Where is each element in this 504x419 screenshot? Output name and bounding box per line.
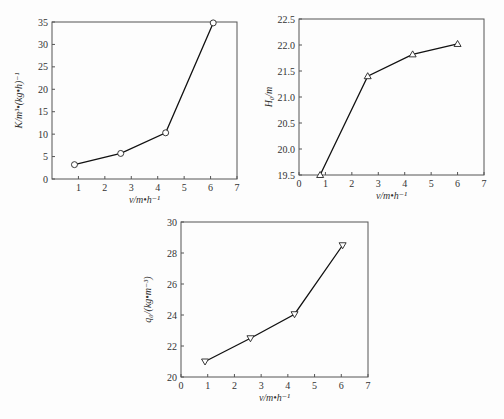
y-axis-label: q₀/(kg•m⁻³) bbox=[142, 276, 154, 323]
x-tick-label: 1 bbox=[205, 380, 210, 391]
data-series-line bbox=[320, 44, 457, 175]
plot-frame bbox=[52, 22, 237, 179]
data-point-marker bbox=[163, 130, 169, 136]
y-tick-label: 25 bbox=[38, 61, 48, 72]
x-tick-label: 6 bbox=[455, 178, 460, 189]
y-tick-label: 35 bbox=[38, 17, 48, 28]
x-tick-label: 1 bbox=[323, 178, 328, 189]
chart-k-vs-velocity: 051015202530351234567v/m•h⁻¹K/m³•(kg•h)⁻… bbox=[13, 17, 240, 206]
y-tick-label: 21.0 bbox=[278, 92, 296, 103]
x-tick-label: 6 bbox=[208, 182, 213, 193]
y-tick-label: 10 bbox=[38, 129, 48, 140]
data-point-marker bbox=[202, 359, 209, 365]
x-tick-label: 5 bbox=[429, 178, 434, 189]
data-point-marker bbox=[118, 150, 124, 156]
y-tick-label: 30 bbox=[38, 39, 48, 50]
y-tick-label: 15 bbox=[38, 106, 48, 117]
data-point-marker bbox=[71, 162, 77, 168]
x-axis-label: v/m•h⁻¹ bbox=[259, 392, 290, 403]
y-tick-label: 20.5 bbox=[278, 118, 296, 129]
x-tick-label: 5 bbox=[182, 182, 187, 193]
x-tick-label: 4 bbox=[402, 178, 407, 189]
y-tick-label: 22.0 bbox=[278, 40, 296, 51]
y-tick-label: 24 bbox=[167, 310, 177, 321]
x-tick-label: 5 bbox=[312, 380, 317, 391]
y-tick-label: 5 bbox=[43, 151, 48, 162]
y-tick-label: 21.5 bbox=[278, 66, 296, 77]
data-series-line bbox=[205, 245, 343, 361]
y-axis-label: K/m³•(kg•h)⁻¹ bbox=[13, 72, 25, 129]
y-tick-label: 20 bbox=[38, 84, 48, 95]
x-tick-label: 3 bbox=[376, 178, 381, 189]
y-axis-label: H₀/m bbox=[263, 87, 274, 109]
chart-h0-vs-velocity: 19.520.020.521.021.522.022.501234567v/m•… bbox=[263, 14, 487, 202]
y-tick-label: 19.5 bbox=[278, 170, 296, 181]
y-tick-label: 22.5 bbox=[278, 14, 296, 25]
x-tick-label: 0 bbox=[179, 380, 184, 391]
x-tick-label: 2 bbox=[102, 182, 107, 193]
data-point-marker bbox=[454, 40, 461, 46]
x-tick-label: 3 bbox=[129, 182, 134, 193]
y-tick-label: 30 bbox=[167, 217, 177, 228]
x-tick-label: 7 bbox=[482, 178, 487, 189]
y-tick-label: 26 bbox=[167, 279, 177, 290]
x-tick-label: 2 bbox=[232, 380, 237, 391]
chart-q0-vs-velocity: 20222426283001234567v/m•h⁻¹q₀/(kg•m⁻³) bbox=[142, 217, 371, 404]
x-tick-label: 1 bbox=[76, 182, 81, 193]
figure-three-line-charts: 051015202530351234567v/m•h⁻¹K/m³•(kg•h)⁻… bbox=[0, 0, 504, 419]
data-point-marker bbox=[247, 336, 254, 342]
plot-frame bbox=[181, 222, 368, 377]
x-tick-label: 4 bbox=[155, 182, 160, 193]
x-tick-label: 4 bbox=[285, 380, 290, 391]
x-tick-label: 3 bbox=[259, 380, 264, 391]
data-point-marker bbox=[291, 312, 298, 318]
y-tick-label: 28 bbox=[167, 248, 177, 259]
y-tick-label: 22 bbox=[167, 341, 177, 352]
x-tick-label: 7 bbox=[366, 380, 371, 391]
x-tick-label: 6 bbox=[339, 380, 344, 391]
y-tick-label: 20 bbox=[167, 372, 177, 383]
x-tick-label: 0 bbox=[297, 178, 302, 189]
data-series-line bbox=[74, 23, 213, 165]
x-tick-label: 2 bbox=[349, 178, 354, 189]
x-axis-label: v/m•h⁻¹ bbox=[376, 190, 407, 201]
x-axis-label: v/m•h⁻¹ bbox=[129, 194, 160, 205]
x-tick-label: 7 bbox=[235, 182, 240, 193]
y-tick-label: 20.0 bbox=[278, 144, 296, 155]
y-tick-label: 0 bbox=[43, 174, 48, 185]
data-point-marker bbox=[210, 20, 216, 26]
